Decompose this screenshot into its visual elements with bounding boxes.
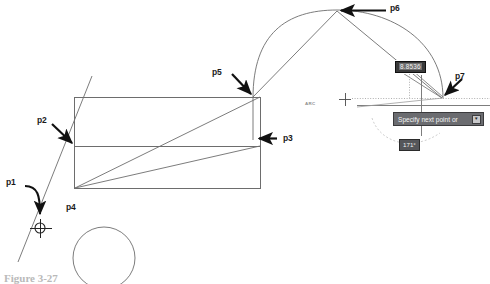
- arrow-p2: [52, 124, 72, 143]
- angle-readout: 171°: [399, 139, 420, 151]
- point-label-p7: p7: [455, 71, 465, 81]
- arrow-p7: [445, 79, 462, 95]
- arc-command-label: ARC: [305, 101, 315, 106]
- distance-input-field[interactable]: 8.8536: [395, 61, 426, 73]
- distance-input-value: 8.8536: [399, 63, 422, 70]
- arrow-p1: [25, 186, 40, 214]
- dynamic-input-prompt[interactable]: Specify next point or ▼: [393, 112, 484, 126]
- arrow-p5: [232, 74, 251, 94]
- point-label-p4: p4: [66, 202, 76, 212]
- chevron-down-icon[interactable]: ▼: [472, 115, 481, 124]
- point-label-p1: p1: [6, 177, 16, 187]
- figure-caption: Figure 3-27: [4, 272, 58, 284]
- point-label-p2: p2: [37, 115, 47, 125]
- point-label-p6: p6: [390, 3, 400, 13]
- prompt-text: Specify next point or: [398, 115, 458, 124]
- point-label-p5: p5: [212, 67, 222, 77]
- point-label-p3: p3: [283, 133, 293, 143]
